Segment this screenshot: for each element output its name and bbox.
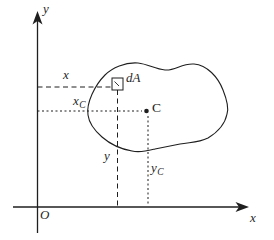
y-c-base: y [151, 160, 157, 175]
centroid-figure: y x O x xC y yC dA C [0, 0, 274, 240]
centroid-dot [144, 109, 149, 114]
x-distance-label: x [63, 68, 69, 81]
y-c-subscript: C [157, 167, 163, 177]
centroid-label: C [152, 101, 161, 115]
area-element-label: dA [126, 71, 140, 84]
figure-canvas [0, 0, 274, 240]
y-axis-label: y [43, 2, 49, 15]
y-distance-label: y [104, 149, 110, 162]
x-axis-label: x [250, 211, 256, 224]
x-c-distance-label: xC [73, 94, 86, 111]
origin-label: O [40, 208, 49, 221]
y-c-distance-label: yC [151, 161, 164, 178]
x-c-base: x [73, 93, 79, 108]
x-c-subscript: C [79, 100, 85, 110]
